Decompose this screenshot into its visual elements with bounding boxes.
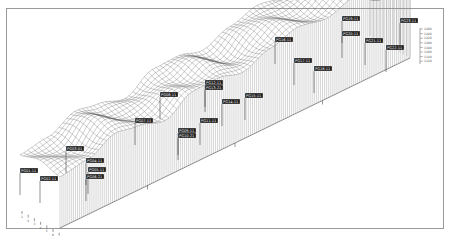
svg-text:1160: 1160: [424, 50, 432, 54]
point-label: PG21-11: [365, 38, 383, 65]
svg-text:PG17-11: PG17-11: [295, 59, 310, 63]
svg-text:PG15-11: PG15-11: [246, 94, 261, 98]
svg-text:1120: 1120: [424, 59, 432, 63]
svg-text:1240: 1240: [424, 32, 432, 36]
svg-text:PG09-11: PG09-11: [179, 129, 194, 133]
z-scale: 12601240122012001180116011401120: [420, 27, 432, 64]
svg-text:PG20-11: PG20-11: [343, 32, 358, 36]
point-label: PG23-11: [400, 18, 418, 45]
svg-text:1140: 1140: [424, 55, 432, 59]
svg-text:PG05-11: PG05-11: [89, 168, 104, 172]
svg-text:1260: 1260: [424, 27, 432, 31]
point-labels: PG01-11PG02-11PG03-01PG04-11PG05-11PG06-…: [20, 16, 418, 203]
svg-text:PG19-11: PG19-11: [343, 17, 358, 21]
point-label: PG01-11: [20, 168, 38, 195]
svg-text:1: 1: [21, 215, 23, 219]
svg-text:5: 5: [46, 229, 48, 233]
svg-text:PG13-21: PG13-21: [206, 86, 221, 90]
svg-text:PG12-11: PG12-11: [206, 81, 221, 85]
svg-text:PG16-11: PG16-11: [276, 38, 291, 42]
svg-text:PG22-11: PG22-11: [387, 46, 402, 50]
svg-text:PG06-21: PG06-21: [87, 175, 102, 179]
svg-text:1200: 1200: [424, 41, 432, 45]
svg-text:PG23-11: PG23-11: [401, 19, 416, 23]
svg-text:6: 6: [52, 233, 54, 237]
svg-text:PG11-11: PG11-11: [201, 119, 216, 123]
point-label: PG20-11: [342, 31, 360, 58]
point-label: PG02-11: [40, 176, 58, 203]
svg-text:PG07-11: PG07-11: [136, 119, 151, 123]
svg-text:PG21-11: PG21-11: [366, 39, 381, 43]
svg-text:PG03-01: PG03-01: [67, 147, 82, 151]
svg-text:PG02-11: PG02-11: [41, 177, 56, 181]
point-label: PG19-11: [342, 16, 360, 43]
svg-text:PG01-11: PG01-11: [21, 169, 36, 173]
svg-text:1220: 1220: [424, 36, 432, 40]
svg-text:PG14-11: PG14-11: [223, 100, 238, 104]
svg-text:PG08-11: PG08-11: [161, 93, 176, 97]
svg-text:2: 2: [27, 219, 29, 223]
point-label: PG11-11: [200, 118, 218, 145]
surface-plot: 123456712601240122012001180116011401120P…: [0, 0, 451, 237]
svg-text:1180: 1180: [424, 46, 432, 50]
svg-text:PG18-11: PG18-11: [315, 67, 330, 71]
svg-text:3: 3: [33, 222, 35, 226]
point-label: PG08-11: [160, 92, 178, 119]
svg-text:PG04-11: PG04-11: [87, 159, 102, 163]
svg-text:4: 4: [40, 226, 42, 230]
svg-text:PG10-21: PG10-21: [179, 134, 194, 138]
